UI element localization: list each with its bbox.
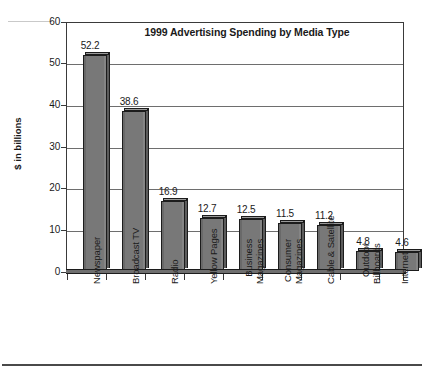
category-label-radio: Radio: [170, 260, 181, 284]
value-label-newspaper: 52.2: [68, 41, 112, 51]
category-line-2: Magazines: [294, 239, 305, 284]
value-label-radio: 16.9: [146, 187, 190, 197]
bar-chart: $ in billions 0 10 20 30 40 50 60: [0, 0, 424, 381]
x-tick-mark-1: [106, 274, 107, 280]
bar-side-yellow-pages: [224, 215, 227, 268]
category-line-1: Radio: [169, 260, 180, 284]
gridline-10: [67, 231, 403, 232]
category-label-broadcast-tv: Broadcast TV: [131, 228, 142, 284]
value-label-business-magazines: 12.5: [224, 205, 268, 215]
x-tick-mark-0: [67, 274, 68, 280]
category-label-cable-satellite: Cable & Satellite: [326, 215, 337, 284]
y-tick-label-50: 50: [34, 58, 60, 68]
category-line-1: Yellow Pages: [208, 229, 219, 285]
footer-divider: [2, 364, 422, 366]
y-tick-label-60: 60: [34, 17, 60, 27]
category-line-1: Consumer: [282, 239, 293, 282]
value-label-cable-satellite: 11.2: [302, 211, 346, 221]
gridline-20: [67, 189, 403, 190]
category-line-1: Outdoor: [360, 243, 371, 277]
category-label-outdoor-billboards: Outdoor Billboards: [361, 243, 382, 284]
x-tick-mark-3: [184, 274, 185, 280]
y-axis-title: $ in billions: [12, 101, 23, 187]
axis-baseline-floor: [66, 269, 406, 274]
category-line-1: Newspaper: [91, 237, 102, 284]
category-label-yellow-pages: Yellow Pages: [209, 229, 220, 285]
plot-area: 1999 Advertising Spending by Media Type: [66, 22, 404, 272]
category-label-business-magazines: Business Magazines: [244, 239, 265, 284]
x-tick-mark-4: [223, 274, 224, 280]
category-line-1: Business: [243, 239, 254, 277]
x-tick-mark-7: [340, 274, 341, 280]
gridline-50: [67, 64, 403, 65]
y-tick-label-10: 10: [34, 225, 60, 235]
category-label-newspaper: Newspaper: [92, 237, 103, 284]
category-line-1: Internet: [399, 253, 410, 284]
y-tick-label-40: 40: [34, 100, 60, 110]
y-axis-tick-labels: 0 10 20 30 40 50 60: [28, 0, 60, 381]
value-label-broadcast-tv: 38.6: [107, 97, 151, 107]
category-line-1: Cable & Satellite: [325, 215, 336, 284]
category-label-consumer-magazines: Consumer Magazines: [283, 239, 304, 284]
y-tick-label-0: 0: [34, 267, 60, 277]
value-label-yellow-pages: 12.7: [185, 204, 229, 214]
gridline-30: [67, 148, 403, 149]
value-label-consumer-magazines: 11.5: [263, 209, 307, 219]
category-line-2: Magazines: [255, 239, 266, 284]
bar-side-newspaper: [107, 52, 110, 268]
x-tick-mark-2: [145, 274, 146, 280]
category-line-2: Billboards: [372, 243, 383, 284]
chart-title: 1999 Advertising Spending by Media Type: [97, 26, 397, 38]
category-line-1: Broadcast TV: [130, 228, 141, 284]
value-label-internet: 4.6: [380, 238, 424, 248]
y-tick-label-20: 20: [34, 183, 60, 193]
y-tick-label-30: 30: [34, 142, 60, 152]
category-label-internet: Internet: [400, 253, 411, 284]
